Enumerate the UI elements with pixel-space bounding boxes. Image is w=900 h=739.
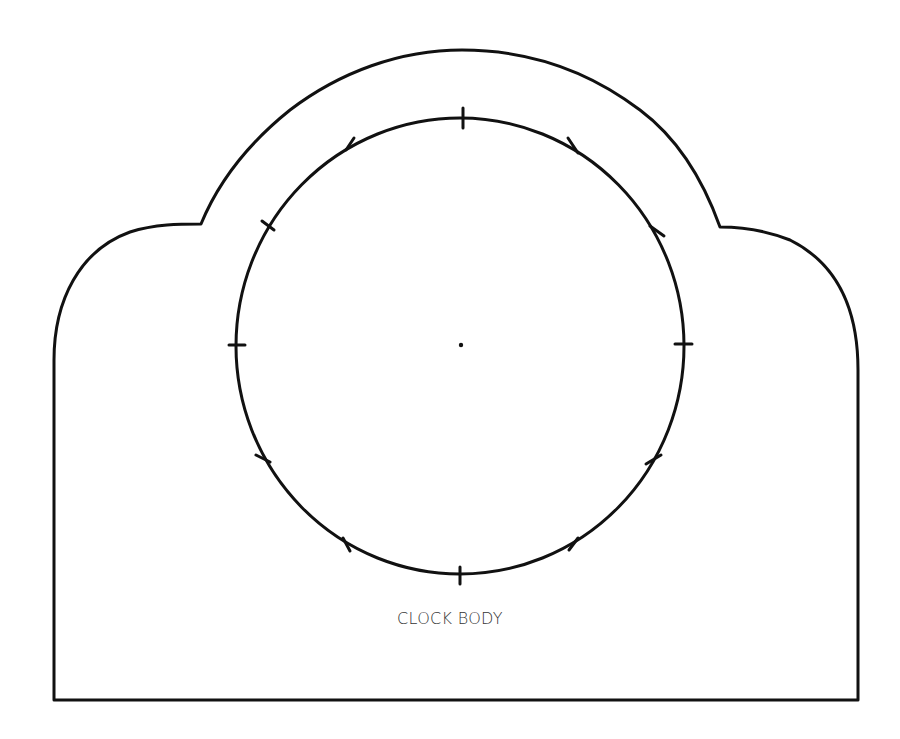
clock-center-dot <box>459 343 463 347</box>
clock-body-drawing <box>0 0 900 739</box>
clock-body-diagram: CLOCK BODY <box>0 0 900 739</box>
diagram-label: CLOCK BODY <box>0 609 900 628</box>
clock-body-outline <box>54 50 858 700</box>
